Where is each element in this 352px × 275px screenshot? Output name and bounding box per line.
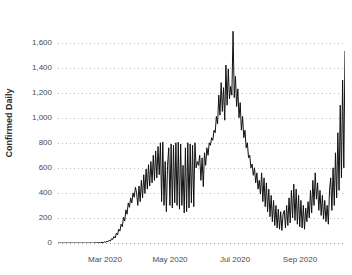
x-axis-tick-labels: Mar 2020May 2020Jul 2020Sep 2020	[0, 255, 352, 269]
series-polyline	[58, 31, 345, 243]
x-tick-label-0: Mar 2020	[88, 255, 122, 264]
x-tick-label-2: Jul 2020	[220, 255, 250, 264]
y-tick-label-1400: 1,400	[32, 64, 52, 72]
plot-area	[58, 30, 345, 243]
y-tick-label-1600: 1,600	[32, 39, 52, 47]
gridline-0	[58, 243, 345, 244]
y-tick-label-0: 0	[48, 239, 52, 247]
x-tick-label-1: May 2020	[152, 255, 187, 264]
x-tick-label-3: Sep 2020	[283, 255, 317, 264]
y-tick-label-1000: 1,000	[32, 114, 52, 122]
y-tick-label-800: 800	[39, 139, 52, 147]
series-line-confirmed-daily	[58, 30, 345, 243]
y-tick-label-400: 400	[39, 189, 52, 197]
y-tick-label-600: 600	[39, 164, 52, 172]
y-axis-title: Confirmed Daily	[4, 68, 14, 178]
y-tick-label-200: 200	[39, 214, 52, 222]
chart-container: 02004006008001,0001,2001,4001,600 Confir…	[0, 0, 352, 275]
y-tick-label-1200: 1,200	[32, 89, 52, 97]
